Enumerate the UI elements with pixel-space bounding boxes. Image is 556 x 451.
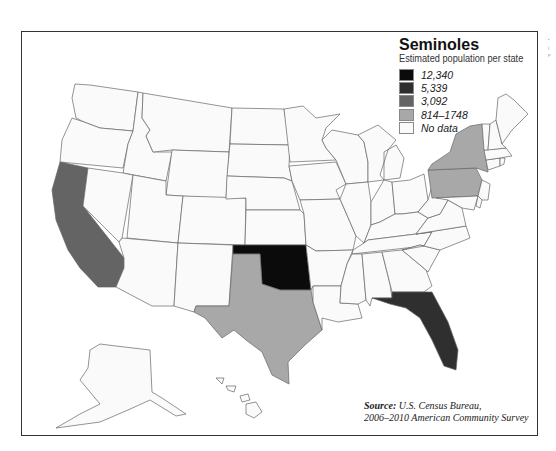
source-label: Source: [364, 400, 396, 411]
legend-subtitle: Estimated population per state [399, 53, 523, 65]
legend-label: 12,340 [421, 69, 453, 81]
legend-swatch [399, 122, 414, 134]
source-text-2: 2006–2010 American Community Survey [364, 412, 529, 423]
state-south-dakota [227, 144, 292, 181]
state-rhode-island [500, 158, 505, 166]
state-iowa [289, 162, 346, 200]
legend-label: 5,339 [421, 82, 447, 94]
legend-item: 3,092 [399, 95, 534, 108]
margin-mark: ( [548, 44, 551, 52]
margin-mark: • [548, 36, 551, 44]
legend-swatch [399, 82, 414, 94]
state-hawaii [216, 378, 262, 418]
legend-swatch [399, 95, 414, 107]
state-montana [142, 93, 232, 152]
margin-marks: • ( P [548, 36, 551, 60]
source-text-1: U.S. Census Bureau, [396, 400, 481, 411]
state-wyoming [166, 150, 229, 199]
legend-item: 12,340 [399, 68, 534, 81]
state-florida [372, 292, 458, 370]
state-north-dakota [230, 108, 290, 145]
state-arizona [116, 238, 178, 306]
margin-mark: P [548, 52, 551, 60]
legend-label: 3,092 [421, 95, 447, 107]
legend-label: No data [421, 122, 458, 134]
legend-item: 814–1748 [399, 108, 534, 121]
legend-swatch [399, 69, 414, 81]
legend: Seminoles Estimated population per state… [399, 36, 534, 135]
state-pennsylvania [428, 168, 482, 198]
legend-swatch [399, 109, 414, 121]
legend-title: Seminoles [399, 36, 534, 53]
state-colorado [178, 196, 246, 245]
legend-item: 5,339 [399, 81, 534, 94]
legend-item: No data [399, 122, 534, 135]
state-kansas [245, 210, 306, 245]
legend-label: 814–1748 [421, 109, 468, 121]
state-new-mexico [174, 243, 233, 312]
source-note: Source: U.S. Census Bureau, 2006–2010 Am… [364, 400, 529, 424]
state-alaska [56, 344, 186, 428]
